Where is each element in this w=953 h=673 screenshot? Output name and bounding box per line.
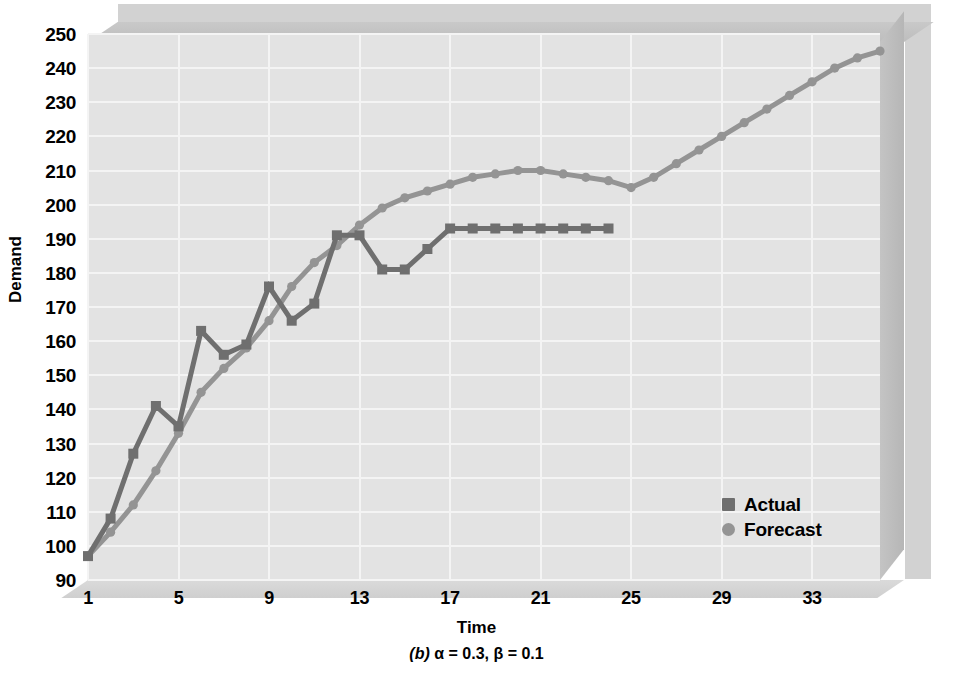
- chart-figure: 9010011012013014015016017018019020021022…: [0, 0, 953, 673]
- chart-legend: ActualForecast: [722, 492, 822, 542]
- legend-item-label: Forecast: [744, 519, 822, 541]
- x-axis-tick-label: 1: [83, 588, 93, 609]
- x-axis-tick-label: 13: [350, 588, 369, 609]
- legend-circle-marker-icon: [722, 523, 735, 536]
- caption-label: (b): [409, 645, 429, 662]
- x-axis-tick-label: 5: [174, 588, 184, 609]
- x-axis-tick-label: 21: [531, 588, 550, 609]
- x-axis-tick-label: 25: [621, 588, 640, 609]
- legend-square-marker-icon: [722, 498, 735, 511]
- x-axis-title: Time: [0, 618, 953, 638]
- x-axis-tick-label: 33: [802, 588, 821, 609]
- figure-caption: (b) α = 0.3, β = 0.1: [0, 645, 953, 663]
- y-axis-title: Demand: [6, 236, 26, 303]
- caption-params: α = 0.3, β = 0.1: [434, 645, 543, 662]
- legend-item-forecast[interactable]: Forecast: [722, 517, 822, 542]
- x-axis-tick-label: 29: [712, 588, 731, 609]
- x-axis-tick-label: 17: [440, 588, 459, 609]
- x-axis-tick-label: 9: [264, 588, 274, 609]
- legend-item-label: Actual: [744, 494, 801, 516]
- legend-item-actual[interactable]: Actual: [722, 492, 822, 517]
